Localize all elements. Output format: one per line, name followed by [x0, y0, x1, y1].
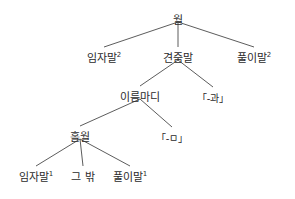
tree-node-superscript: 1: [49, 170, 53, 178]
tree-node-label: 이름마디: [120, 91, 160, 104]
tree-node-label: 「-ㅁ」: [156, 133, 189, 144]
tree-node-n7: 「-ㅁ」: [156, 132, 189, 145]
tree-edge: [178, 22, 254, 47]
tree-node-label: 풀이말: [237, 52, 267, 65]
tree-node-label: 월: [173, 14, 183, 27]
tree-node-superscript: 2: [117, 51, 121, 59]
tree-node-label: 견줌말: [163, 52, 193, 65]
tree-node-label: 임자말: [19, 171, 49, 184]
tree-node-n4: 이름마디: [120, 91, 160, 104]
tree-node-label: 그 밖: [71, 171, 95, 184]
tree-node-n5: 「-과」: [197, 92, 230, 105]
syntax-tree-diagram: 월임자말2견줌말풀이말2이름마디「-과」홀월「-ㅁ」임자말1그 밖풀이말1: [0, 0, 295, 199]
tree-node-n0: 월: [173, 14, 183, 27]
tree-node-label: 「-과」: [197, 93, 230, 104]
tree-node-n10: 풀이말1: [113, 171, 147, 184]
tree-node-label: 홀월: [70, 131, 90, 144]
tree-node-n8: 임자말1: [19, 171, 53, 184]
tree-node-n2: 견줌말: [163, 52, 193, 65]
tree-node-superscript: 1: [143, 170, 147, 178]
tree-node-superscript: 2: [267, 51, 271, 59]
tree-node-label: 풀이말: [113, 171, 143, 184]
tree-edge: [104, 22, 178, 47]
tree-node-n6: 홀월: [70, 131, 90, 144]
tree-node-n1: 임자말2: [87, 52, 121, 65]
tree-node-label: 임자말: [87, 52, 117, 65]
tree-node-n9: 그 밖: [71, 171, 95, 184]
tree-node-n3: 풀이말2: [237, 52, 271, 65]
